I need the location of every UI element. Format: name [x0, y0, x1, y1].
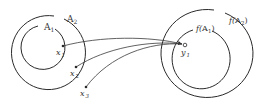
set-f-a1-circle [172, 30, 230, 89]
mapping-arrows [63, 38, 182, 87]
arrow-x2-y1 [76, 43, 182, 67]
arrow-x3-y1 [86, 44, 182, 87]
point-x1 [62, 45, 65, 48]
label-x1: x1 [56, 48, 65, 58]
label-a2: A2 [66, 14, 78, 25]
label-x3: x3 [80, 89, 90, 99]
label-x2: x2 [70, 69, 80, 79]
mapping-diagram: A2 A1 x1 x2 x3 f(A1) f(A2) y1 [0, 0, 266, 107]
label-a1: A1 [43, 22, 54, 33]
label-f-a1: f(A1) [195, 24, 215, 34]
point-x3 [85, 86, 88, 89]
arrow-x1-y1 [63, 38, 182, 46]
label-f-a2: f(A2) [228, 16, 248, 26]
point-x2 [75, 66, 78, 69]
label-y1: y1 [180, 48, 190, 58]
point-y1 [183, 43, 187, 47]
